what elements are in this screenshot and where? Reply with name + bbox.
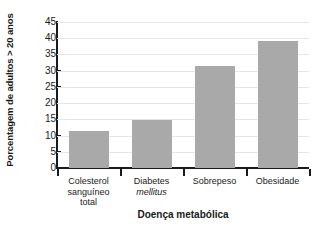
x-axis-category-label: Diabetesmellitus [121, 176, 183, 197]
y-axis-tick-marks [0, 22, 62, 168]
gridline [57, 38, 309, 39]
x-axis-tick-marks [57, 169, 309, 176]
bar [258, 41, 298, 169]
x-axis-tick-mark [57, 169, 59, 176]
bar [132, 120, 172, 168]
x-axis-tick-mark [183, 169, 185, 176]
plot-area [57, 22, 309, 168]
x-axis-tick-mark [246, 169, 248, 176]
x-axis-category-label: Sobrepeso [184, 176, 246, 187]
x-axis-title: Doença metabólica [57, 209, 309, 220]
gridline [57, 22, 309, 23]
x-axis-category-label: Colesterolsanguíneototal [58, 176, 120, 208]
x-axis-tick-mark [120, 169, 122, 176]
bar [69, 131, 109, 168]
bar [195, 66, 235, 168]
x-axis-tick-mark [309, 169, 311, 176]
bar-chart-figure: Porcentagem de adultos > 20 anos 0510152… [0, 0, 328, 230]
x-axis-category-label: Obesidade [247, 176, 309, 187]
